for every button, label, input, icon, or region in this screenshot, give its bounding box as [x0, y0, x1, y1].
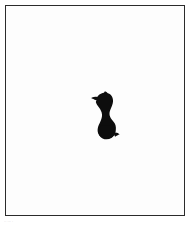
animal-silhouette-icon — [91, 91, 125, 141]
plate-mark-caption: ·· ··· · — [4, 219, 30, 225]
figure-frame — [5, 5, 185, 216]
figure-plate-background — [6, 6, 184, 215]
figure-page: ·· ··· · — [0, 0, 192, 228]
